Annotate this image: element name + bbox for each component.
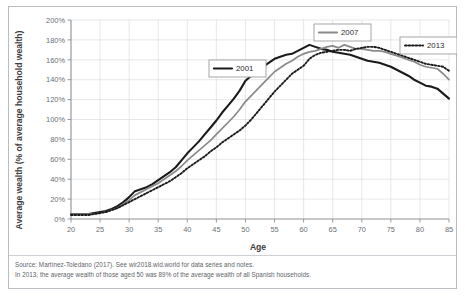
figure-notes: Source: Martínez-Toledano (2017). See wi… bbox=[9, 255, 456, 288]
x-tick-label: 70 bbox=[358, 225, 366, 234]
x-tick-label: 60 bbox=[299, 225, 307, 234]
x-tick-label: 35 bbox=[154, 225, 162, 234]
x-tick-label: 45 bbox=[212, 225, 220, 234]
x-tick-label: 20 bbox=[67, 225, 75, 234]
axes bbox=[68, 20, 450, 223]
legend-label-2007: 2007 bbox=[341, 28, 358, 37]
y-tick-label: 120% bbox=[46, 95, 65, 104]
x-tick-label: 55 bbox=[270, 225, 278, 234]
y-tick-label: 20% bbox=[50, 195, 65, 204]
y-tick-label: 60% bbox=[50, 155, 65, 164]
y-axis-title: Average wealth (% of average household w… bbox=[14, 30, 24, 229]
legend-item-2013[interactable]: 2013 bbox=[400, 37, 457, 54]
legend-item-2001[interactable]: 2001 bbox=[209, 60, 266, 77]
x-tick-label: 65 bbox=[329, 225, 337, 234]
chart-plot-area: 0%20%40%60%80%100%120%140%160%180%200%20… bbox=[8, 6, 457, 255]
x-tick-label: 80 bbox=[416, 225, 424, 234]
line-chart: 0%20%40%60%80%100%120%140%160%180%200%20… bbox=[8, 6, 457, 255]
source-note: Source: Martínez-Toledano (2017). See wi… bbox=[15, 260, 450, 270]
y-tick-label: 160% bbox=[46, 56, 65, 65]
x-tick-label: 50 bbox=[241, 225, 249, 234]
legend-label-2013: 2013 bbox=[427, 41, 444, 50]
x-tick-label: 30 bbox=[125, 225, 133, 234]
y-tick-label: 40% bbox=[50, 175, 65, 184]
y-tick-label: 200% bbox=[46, 16, 65, 25]
x-tick-label: 75 bbox=[387, 225, 395, 234]
x-axis-title: Age bbox=[250, 242, 266, 252]
x-tick-label: 25 bbox=[96, 225, 104, 234]
x-tick-label: 85 bbox=[445, 225, 453, 234]
y-tick-label: 140% bbox=[46, 75, 65, 84]
legend-item-2007[interactable]: 2007 bbox=[314, 24, 371, 41]
figure-container: 0%20%40%60%80%100%120%140%160%180%200%20… bbox=[0, 0, 465, 300]
y-tick-label: 80% bbox=[50, 135, 65, 144]
x-tick-label: 40 bbox=[183, 225, 191, 234]
tick-labels: 0%20%40%60%80%100%120%140%160%180%200%20… bbox=[46, 16, 453, 234]
y-tick-label: 100% bbox=[46, 115, 65, 124]
reading-note: In 2013, the average wealth of those age… bbox=[15, 270, 450, 280]
gridlines bbox=[71, 20, 449, 219]
y-tick-label: 180% bbox=[46, 36, 65, 45]
y-tick-label: 0% bbox=[54, 215, 65, 224]
legend-label-2001: 2001 bbox=[236, 64, 253, 73]
